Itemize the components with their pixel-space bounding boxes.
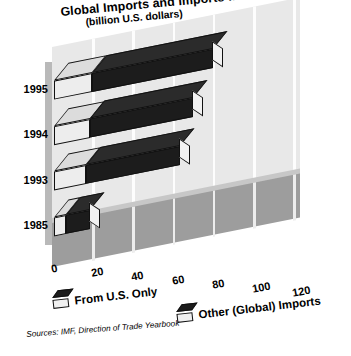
gridline-floor: [213, 190, 216, 236]
x-axis-tick-label: 80: [211, 276, 225, 290]
x-axis-tick-label: 20: [90, 265, 104, 279]
x-axis-tick-label: 40: [130, 269, 144, 283]
y-axis-label: 1993: [8, 174, 48, 186]
y-axis-label: 1995: [8, 83, 48, 95]
bar-front-face: [54, 215, 66, 236]
x-axis-tick-label: 100: [251, 279, 271, 294]
chart-canvas: Global Imports and Imports from the U.S.…: [0, 0, 351, 356]
gridline-floor: [132, 206, 135, 252]
bar-segment-from-us-only: [54, 215, 66, 236]
gridline: [253, 6, 256, 182]
x-axis-tick-label: 60: [171, 273, 185, 287]
gridline-floor: [293, 174, 296, 220]
y-axis-label: 1985: [8, 219, 48, 231]
y-axis-label: 1994: [8, 128, 48, 140]
legend-swatch-icon: [52, 298, 69, 309]
gridline-floor: [173, 198, 176, 244]
gridline-floor: [253, 182, 256, 228]
gridline: [293, 0, 296, 175]
